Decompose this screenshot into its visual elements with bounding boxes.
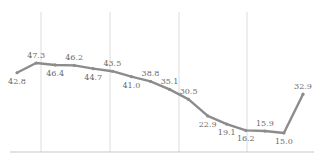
data-point xyxy=(54,63,57,66)
data-label: 43.5 xyxy=(103,59,121,68)
vertical-gridlines xyxy=(41,12,247,152)
data-point xyxy=(168,88,171,91)
data-point xyxy=(187,98,190,101)
data-point xyxy=(244,129,247,132)
data-label: 47.3 xyxy=(27,51,45,60)
data-label: 46.2 xyxy=(65,53,83,62)
data-point xyxy=(73,64,76,67)
data-point xyxy=(92,67,95,70)
data-point xyxy=(130,75,133,78)
data-point xyxy=(34,61,37,64)
line-chart: 42.847.346.446.244.743.541.038.835.130.5… xyxy=(0,0,322,160)
data-label: 30.5 xyxy=(180,87,198,96)
data-label: 15.0 xyxy=(275,137,293,146)
data-point xyxy=(225,123,228,126)
data-point xyxy=(282,131,285,134)
data-label: 38.8 xyxy=(142,69,160,78)
data-label: 15.9 xyxy=(256,119,274,128)
data-label: 46.4 xyxy=(46,69,64,78)
data-point xyxy=(301,93,304,96)
data-point xyxy=(206,114,209,117)
data-point xyxy=(263,129,266,132)
data-label: 19.1 xyxy=(218,128,236,137)
data-label: 44.7 xyxy=(84,73,102,82)
data-point xyxy=(149,80,152,83)
data-point xyxy=(15,71,18,74)
data-label: 42.8 xyxy=(8,77,26,86)
data-label: 16.2 xyxy=(237,134,255,143)
data-label: 32.9 xyxy=(294,82,312,91)
data-label: 41.0 xyxy=(122,81,140,90)
data-label: 35.1 xyxy=(161,77,179,86)
data-label: 22.9 xyxy=(199,120,217,129)
data-point xyxy=(111,70,114,73)
